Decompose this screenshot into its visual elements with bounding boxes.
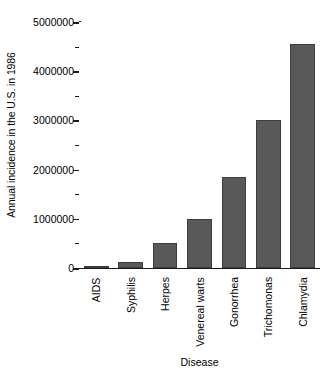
x-tick-label: Trichomonas (251, 271, 285, 359)
x-tick-label: AIDS (79, 271, 113, 359)
bar-herpes (153, 243, 178, 268)
x-axis-title: Disease (79, 356, 320, 368)
y-axis-title-text: Annual incidence in the U.S. in 1986 (5, 52, 17, 218)
bar-trichomonas (256, 120, 281, 268)
y-tick-label: 1000000 (33, 213, 74, 225)
y-tick-label: 3000000 (33, 114, 74, 126)
x-tick-label: Venereal warts (182, 271, 216, 359)
x-tick-label-text: Herpes (159, 277, 171, 311)
bar-aids (84, 266, 109, 268)
x-axis-tick-labels: AIDSSyphilisHerpesVenereal wartsGonorrhe… (79, 271, 320, 359)
bar-venereal-warts (187, 219, 212, 268)
x-tick-label-text: Syphilis (125, 277, 137, 313)
y-axis-tick-labels: 010000002000000300000040000005000000 (18, 0, 78, 380)
plot-area (79, 22, 320, 268)
x-tick-label: Chlamydia (286, 271, 320, 359)
x-tick-label-text: Venereal warts (194, 277, 206, 346)
x-tick-label: Herpes (148, 271, 182, 359)
bar-syphilis (118, 262, 143, 268)
y-tick-label: 2000000 (33, 164, 74, 176)
bar-chart-figure: Annual incidence in the U.S. in 1986 010… (0, 0, 329, 380)
bar-chlamydia (290, 44, 315, 268)
bar-gonorrhea (222, 177, 247, 268)
x-tick-label: Gonorrhea (217, 271, 251, 359)
x-tick-label: Syphilis (113, 271, 147, 359)
x-tick-label-text: Trichomonas (262, 277, 274, 337)
x-tick-label-text: Gonorrhea (228, 277, 240, 327)
x-tick-label-text: AIDS (90, 277, 102, 302)
y-tick-label: 5000000 (33, 16, 74, 28)
x-tick-label-text: Chlamydia (297, 277, 309, 327)
y-tick-label: 4000000 (33, 65, 74, 77)
